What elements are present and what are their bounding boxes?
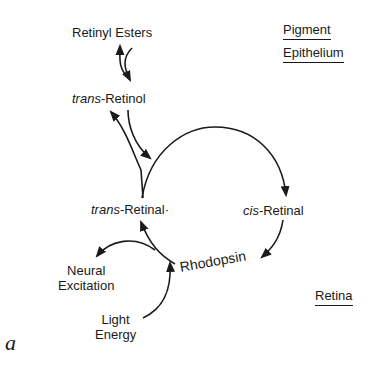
cis-retinal-suffix: -Retinal <box>259 203 304 218</box>
neural-line: Neural <box>58 263 114 278</box>
arrow-from-trans-retinol <box>128 110 150 158</box>
retinol-suffix: -Retinol <box>101 91 146 106</box>
node-trans-retinol: trans-Retinol <box>72 91 146 106</box>
trans-prefix: trans <box>91 202 120 217</box>
node-light-energy: Light Energy <box>95 312 136 342</box>
node-retinyl-esters: Retinyl Esters <box>72 25 152 40</box>
region-retina: Retina <box>315 288 353 306</box>
cis-prefix: cis <box>243 203 259 218</box>
arrow-rhodopsin-to-trans-retinal <box>141 222 175 264</box>
region-label-epithelium: Epithelium <box>283 45 344 63</box>
retinal-suffix: -Retinal· <box>120 202 169 217</box>
arc-trans-to-cis <box>142 127 286 198</box>
node-neural-excitation: Neural Excitation <box>58 263 114 293</box>
panel-label: a <box>5 330 16 356</box>
region-pigment-epithelium: Pigment Epithelium <box>283 22 344 63</box>
node-trans-retinal: trans-Retinal· <box>91 202 169 217</box>
trans-prefix: trans <box>72 91 101 106</box>
node-cis-retinal: cis-Retinal <box>243 203 304 218</box>
arrow-light-to-rhodopsin <box>143 263 170 318</box>
light-line: Light <box>95 312 136 327</box>
excitation-line: Excitation <box>58 278 114 293</box>
region-label-pigment: Pigment <box>283 22 331 40</box>
arrow-cis-to-rhodopsin <box>262 220 283 257</box>
energy-line: Energy <box>95 327 136 342</box>
arrow-to-neural-excitation <box>97 241 155 256</box>
region-label-retina: Retina <box>315 288 353 306</box>
